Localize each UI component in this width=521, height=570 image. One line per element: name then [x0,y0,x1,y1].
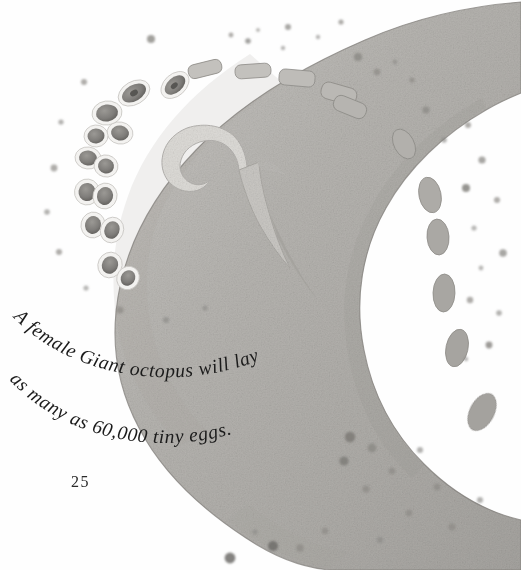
book-page: A female Giant octopus will lay as many … [0,0,521,570]
caption-line-1: A female Giant octopus will lay [9,304,262,382]
caption-line-1-text: A female Giant octopus will lay [9,304,262,382]
page-number: 25 [71,473,90,491]
caption-line-2-text: as many as 60,000 tiny eggs. [6,368,234,447]
caption-line-2: as many as 60,000 tiny eggs. [6,368,234,447]
